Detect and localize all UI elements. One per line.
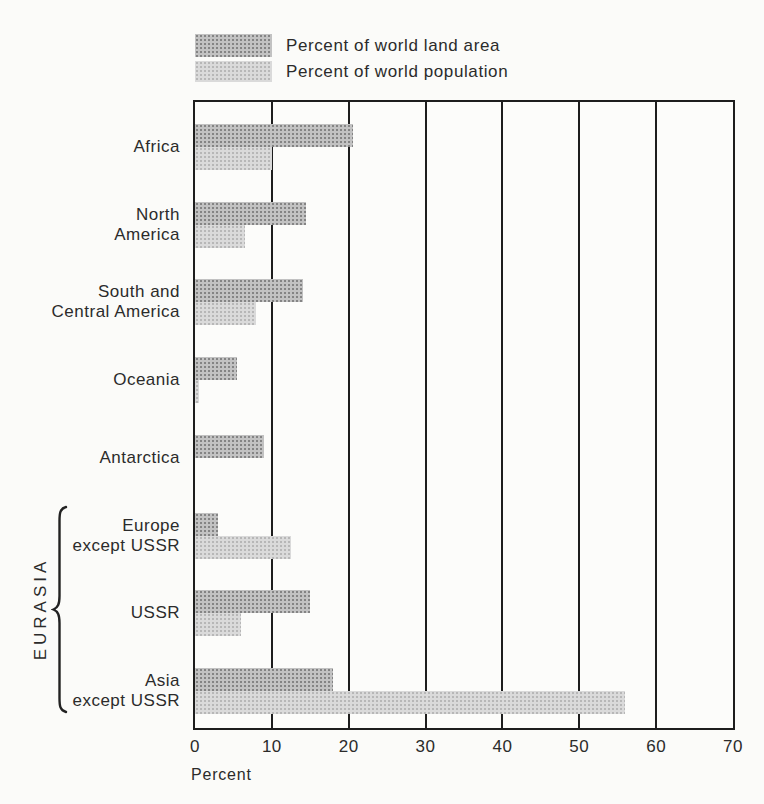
x-tick-label-50: 50 <box>569 737 589 757</box>
legend: Percent of world land area Percent of wo… <box>195 34 508 86</box>
eurasia-brace <box>51 505 69 714</box>
category-label-africa: Africa <box>134 137 180 157</box>
category-label-antarctica: Antarctica <box>99 448 180 468</box>
bar-oceania-population <box>195 380 199 403</box>
bar-north-america-population <box>195 225 245 248</box>
gridline-30 <box>425 102 427 728</box>
bar-antarctica-land-area <box>195 435 264 458</box>
x-tick-label-10: 10 <box>262 737 282 757</box>
category-label-europe-except-ussr: Europe except USSR <box>72 516 180 556</box>
bar-south-and-central-america-land-area <box>195 279 303 302</box>
x-tick-label-70: 70 <box>723 737 743 757</box>
bar-europe-except-ussr-land-area <box>195 513 218 536</box>
gridline-10 <box>271 102 273 728</box>
x-tick-label-0: 0 <box>190 737 200 757</box>
x-axis-title: Percent <box>191 766 252 784</box>
category-label-ussr: USSR <box>131 603 180 623</box>
bar-asia-except-ussr-population <box>195 691 625 714</box>
chart-canvas: Percent of world land area Percent of wo… <box>0 0 764 804</box>
legend-swatch-population-icon <box>195 61 272 82</box>
eurasia-group-label: EURASIA <box>31 509 51 709</box>
gridline-60 <box>655 102 657 728</box>
legend-label-population: Percent of world population <box>286 62 508 82</box>
category-label-north-america: North America <box>114 205 180 245</box>
bar-oceania-land-area <box>195 357 237 380</box>
category-label-asia-except-ussr: Asia except USSR <box>72 671 180 711</box>
gridline-40 <box>501 102 503 728</box>
bar-asia-except-ussr-land-area <box>195 668 333 691</box>
legend-label-land-area: Percent of world land area <box>286 36 500 56</box>
plot-area <box>193 100 735 730</box>
gridline-20 <box>348 102 350 728</box>
bar-africa-population <box>195 147 272 170</box>
x-tick-label-30: 30 <box>416 737 436 757</box>
category-labels: AfricaNorth AmericaSouth and Central Ame… <box>0 100 187 730</box>
x-axis-ticks: 010203040506070 <box>0 737 764 761</box>
legend-item-land-area: Percent of world land area <box>195 34 508 57</box>
bar-europe-except-ussr-population <box>195 536 291 559</box>
gridline-50 <box>578 102 580 728</box>
bar-ussr-population <box>195 613 241 636</box>
x-tick-label-20: 20 <box>339 737 359 757</box>
bar-africa-land-area <box>195 124 353 147</box>
category-label-oceania: Oceania <box>113 370 180 390</box>
x-tick-label-60: 60 <box>646 737 666 757</box>
bar-south-and-central-america-population <box>195 302 256 325</box>
legend-swatch-land-area-icon <box>195 34 272 57</box>
x-tick-label-40: 40 <box>492 737 512 757</box>
bar-ussr-land-area <box>195 590 310 613</box>
legend-item-population: Percent of world population <box>195 61 508 82</box>
category-label-south-and-central-america: South and Central America <box>52 282 180 322</box>
bar-north-america-land-area <box>195 202 306 225</box>
